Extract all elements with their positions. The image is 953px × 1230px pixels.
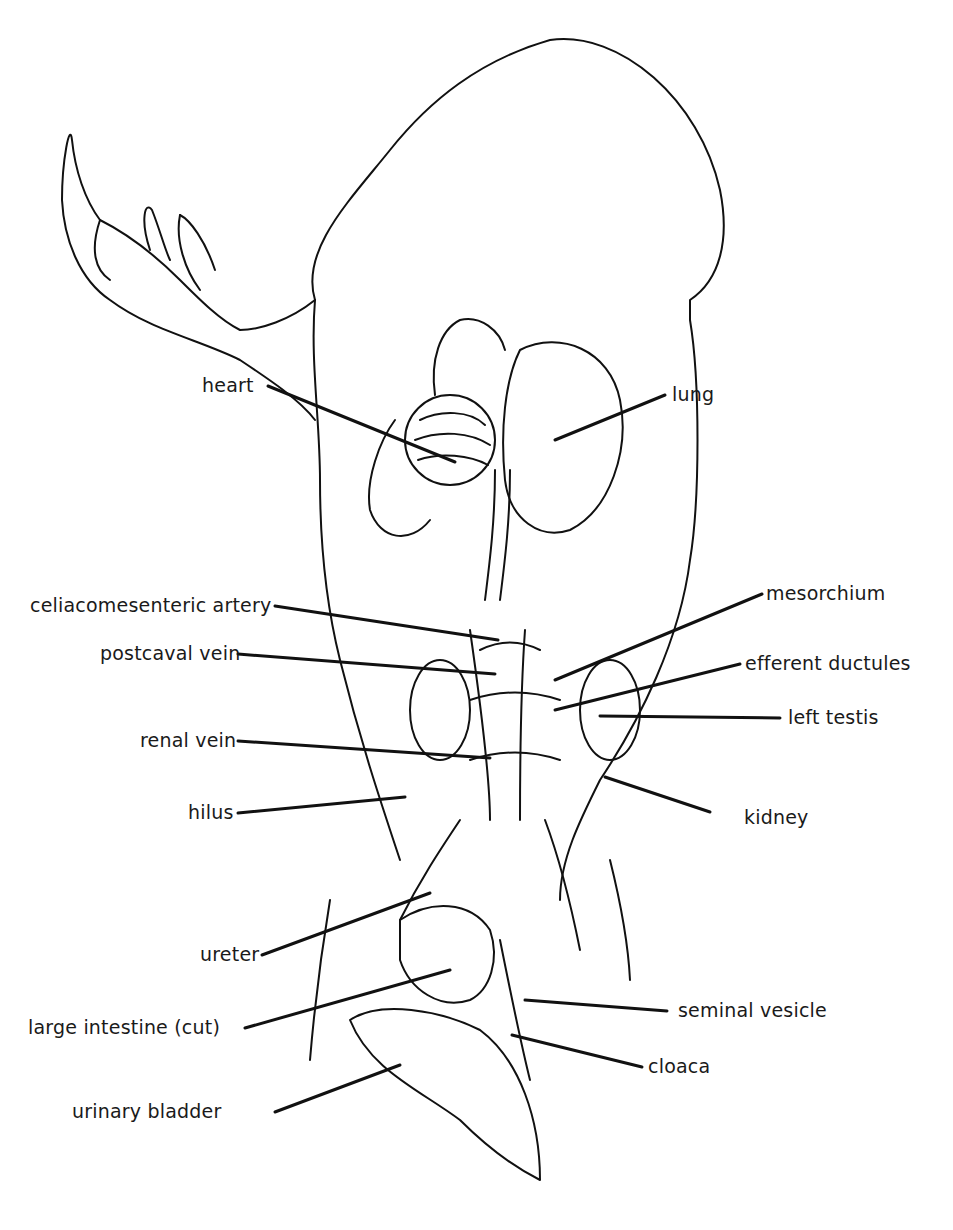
label-left-testis: left testis xyxy=(788,708,879,727)
label-urinary-bladder: urinary bladder xyxy=(72,1102,222,1121)
label-kidney: kidney xyxy=(744,808,809,827)
label-efferent-ductules: efferent ductules xyxy=(745,654,911,673)
label-heart: heart xyxy=(202,376,254,395)
label-postcaval-vein: postcaval vein xyxy=(100,644,240,663)
anatomy-diagram: heart celiacomesenteric artery postcaval… xyxy=(0,0,953,1230)
label-lung: lung xyxy=(672,385,714,404)
label-renal-vein: renal vein xyxy=(140,731,236,750)
label-seminal-vesicle: seminal vesicle xyxy=(678,1001,827,1020)
label-cloaca: cloaca xyxy=(648,1057,710,1076)
label-ureter: ureter xyxy=(200,945,259,964)
label-mesorchium: mesorchium xyxy=(766,584,885,603)
label-hilus: hilus xyxy=(188,803,234,822)
label-large-intestine: large intestine (cut) xyxy=(28,1018,220,1037)
label-celiacomesenteric-artery: celiacomesenteric artery xyxy=(30,596,271,615)
